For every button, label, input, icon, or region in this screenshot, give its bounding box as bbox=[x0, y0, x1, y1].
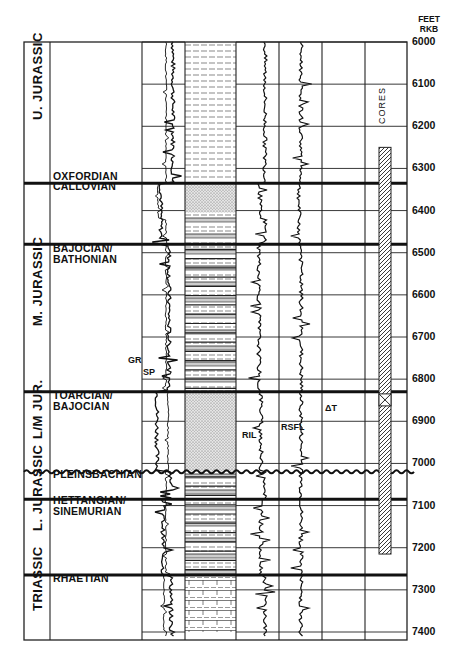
stage-label: BAJOCIAN/ BATHONIAN bbox=[53, 243, 117, 265]
system-label: M. JURASSIC bbox=[30, 236, 45, 325]
depth-label: 6700 bbox=[412, 330, 435, 342]
depth-unit-line1: FEET bbox=[412, 14, 446, 24]
depth-label: 7000 bbox=[412, 456, 435, 468]
gr-curve bbox=[152, 42, 181, 636]
depth-label: 7300 bbox=[412, 583, 435, 595]
depth-unit-line2: RKB bbox=[412, 24, 446, 34]
rsfl-curve-label: RSFL bbox=[281, 422, 305, 432]
depth-label: 6000 bbox=[412, 35, 435, 47]
sp-curve-label: SP bbox=[143, 367, 155, 377]
depth-label: 6500 bbox=[412, 246, 435, 258]
lithology-interval-limestone bbox=[185, 575, 236, 632]
stage-label: CALLOVIAN bbox=[53, 181, 116, 192]
system-label: L. JURASSIC bbox=[30, 445, 45, 531]
depth-label: 7100 bbox=[412, 499, 435, 511]
stage-label: PLEINSBACHIAN bbox=[53, 469, 142, 480]
depth-label: 6900 bbox=[412, 414, 435, 426]
depth-label: 6400 bbox=[412, 204, 435, 216]
system-label: U. JURASSIC bbox=[30, 32, 45, 120]
depth-grid bbox=[142, 42, 407, 632]
system-label: TRIASSIC bbox=[30, 546, 45, 611]
depth-label: 7400 bbox=[412, 625, 435, 637]
lithology-interval-mixed bbox=[185, 213, 236, 245]
core-interval bbox=[379, 147, 391, 554]
lithology-interval-shale bbox=[185, 42, 236, 183]
ril-curve-label: RIL bbox=[242, 430, 257, 440]
cores-bar bbox=[379, 147, 391, 554]
depth-label: 6300 bbox=[412, 161, 435, 173]
system-label: L/M JUR. bbox=[30, 380, 45, 440]
stage-label: TOARCIAN/ BAJOCIAN bbox=[53, 390, 113, 412]
lithology-interval-sand bbox=[185, 392, 236, 472]
dt-curve bbox=[291, 42, 312, 636]
depth-label: 6800 bbox=[412, 372, 435, 384]
well-log-diagram bbox=[0, 0, 458, 659]
depth-label: 6100 bbox=[412, 77, 435, 89]
depth-label: 6600 bbox=[412, 288, 435, 300]
lithology-interval-sand bbox=[185, 183, 236, 213]
depth-label: 6200 bbox=[412, 119, 435, 131]
lithology-column bbox=[185, 42, 236, 632]
gr-curve-label: GR bbox=[128, 355, 142, 365]
stage-label: RHAETIAN bbox=[53, 573, 109, 584]
cores-label: CORES bbox=[377, 87, 387, 124]
dt-curve-label: ΔT bbox=[325, 403, 337, 413]
depth-unit-header: FEET RKB bbox=[412, 14, 446, 34]
ril-curve bbox=[249, 42, 276, 636]
stage-label: HETTANGIAN/ SINEMURIAN bbox=[53, 495, 126, 517]
depth-label: 7200 bbox=[412, 541, 435, 553]
